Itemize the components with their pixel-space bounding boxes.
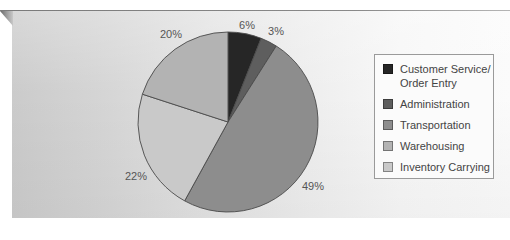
slice-label-administration: 3% [268, 26, 284, 37]
slice-label-customer-service: 6% [239, 20, 255, 31]
legend-item-administration: Administration [383, 97, 493, 111]
legend-swatch [383, 120, 393, 130]
legend-swatch [383, 141, 393, 151]
slice-label-inventory-carrying: 22% [125, 171, 147, 182]
slice-label-transportation: 49% [302, 181, 324, 192]
legend-label-line1: Transportation [400, 118, 471, 132]
legend-label-line1: Warehousing [400, 139, 464, 153]
legend-label-line2: Order Entry [400, 76, 490, 90]
legend-item-customer-service: Customer Service/ Order Entry [383, 62, 493, 90]
legend: Customer Service/ Order Entry Administra… [374, 54, 494, 179]
slice-label-warehousing: 20% [160, 29, 182, 40]
legend-item-warehousing: Warehousing [383, 139, 493, 153]
legend-label-line1: Administration [400, 97, 470, 111]
legend-item-inventory-carrying: Inventory Carrying [383, 160, 493, 174]
legend-label-line1: Inventory Carrying [400, 160, 490, 174]
pie-slices [138, 32, 318, 212]
legend-swatch [383, 162, 393, 172]
legend-label: Customer Service/ Order Entry [400, 62, 490, 90]
legend-swatch [383, 64, 393, 74]
legend-label-line1: Customer Service/ [400, 62, 490, 76]
legend-item-transportation: Transportation [383, 118, 493, 132]
legend-label: Transportation [400, 118, 471, 132]
legend-swatch [383, 99, 393, 109]
legend-label: Administration [400, 97, 470, 111]
legend-label: Warehousing [400, 139, 464, 153]
legend-label: Inventory Carrying [400, 160, 490, 174]
